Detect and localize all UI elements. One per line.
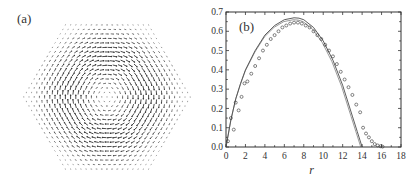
vortex-lattice-panel: (a) [0, 0, 210, 182]
vortex-arrow-field [24, 25, 191, 170]
x-tick-label: 6 [282, 151, 287, 161]
data-point [265, 43, 268, 46]
data-point [258, 57, 261, 60]
data-point [355, 103, 358, 106]
data-point [316, 34, 319, 37]
data-point [381, 145, 384, 148]
data-point [232, 128, 235, 131]
data-point [243, 82, 246, 85]
data-point [343, 78, 346, 81]
data-point [254, 65, 257, 68]
data-point [351, 93, 354, 96]
data-point [293, 21, 296, 24]
data-point [281, 26, 284, 29]
data-point [237, 109, 240, 112]
data-point [226, 140, 229, 143]
data-point [362, 126, 365, 129]
y-tick-label: 0.2 [211, 104, 223, 114]
data-point [269, 38, 272, 41]
data-point [240, 95, 243, 98]
data-point [376, 144, 379, 147]
data-point [339, 70, 342, 73]
data-point [285, 24, 288, 27]
x-tick-label: 12 [338, 151, 348, 161]
data-point [359, 111, 362, 114]
y-tick-label: 0.0 [211, 142, 223, 152]
data-point [347, 86, 350, 89]
profile-chart: 0246810121416180.00.10.20.30.40.50.60.7r [211, 7, 406, 177]
data-point [335, 63, 338, 66]
data-point [324, 43, 327, 46]
data-point [273, 34, 276, 37]
data-point [261, 49, 264, 52]
x-tick-label: 14 [357, 151, 367, 161]
x-tick-label: 4 [263, 151, 268, 161]
data-point [367, 136, 370, 139]
x-axis-label: r [309, 163, 314, 177]
data-point [312, 30, 315, 33]
data-point [296, 21, 299, 24]
x-tick-label: 0 [224, 151, 229, 161]
y-tick-label: 0.3 [211, 84, 223, 94]
data-point [304, 24, 307, 27]
data-point [277, 30, 280, 33]
data-point [365, 132, 368, 135]
data-point [289, 22, 292, 25]
panel-a-label: (a) [17, 11, 31, 26]
x-tick-label: 10 [318, 151, 328, 161]
data-point [229, 117, 232, 120]
data-point [379, 145, 382, 148]
x-tick-label: 18 [396, 151, 406, 161]
data-point [250, 72, 253, 75]
y-tick-label: 0.1 [211, 123, 223, 133]
theory-curve [226, 18, 362, 147]
y-tick-label: 0.6 [211, 26, 223, 36]
panel-b-label: (b) [239, 19, 254, 34]
data-point [331, 55, 334, 58]
data-point [370, 140, 373, 143]
plot-frame [226, 12, 401, 147]
data-point [373, 143, 376, 146]
y-tick-label: 0.5 [211, 46, 223, 56]
x-tick-label: 16 [377, 151, 387, 161]
data-point [300, 22, 303, 25]
y-tick-label: 0.7 [211, 7, 223, 17]
data-point [320, 38, 323, 41]
data-point [308, 26, 311, 29]
y-tick-label: 0.4 [211, 65, 223, 75]
x-tick-label: 2 [243, 151, 248, 161]
data-point [234, 101, 237, 104]
data-point [328, 49, 331, 52]
x-tick-label: 8 [301, 151, 306, 161]
data-point [246, 80, 249, 83]
